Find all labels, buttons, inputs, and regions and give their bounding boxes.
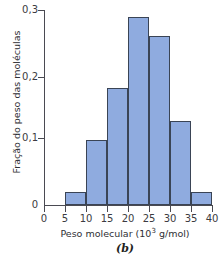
y-tick-0.2 <box>38 77 45 78</box>
histogram-bar <box>191 192 212 205</box>
y-tick-label-0: 0 <box>4 200 38 210</box>
y-tick-0.1 <box>38 138 45 139</box>
x-tick-label-40: 40 <box>200 213 224 224</box>
x-tick-35 <box>191 206 192 212</box>
y-axis-title: Fração do peso das moléculas <box>12 22 22 182</box>
x-tick-5 <box>65 206 66 212</box>
x-tick-25 <box>149 206 150 212</box>
y-tick-label-0-wrap: 0 <box>0 200 38 210</box>
histogram-bar <box>107 88 128 205</box>
y-tick-label-0.2-wrap: 0,2 <box>0 72 38 82</box>
x-tick-15 <box>107 206 108 212</box>
x-axis-title-suffix: g/mol) <box>156 228 190 239</box>
histogram-bar <box>149 36 170 205</box>
x-axis-title: Peso molecular (103 g/mol) <box>30 228 220 239</box>
y-tick-label-0.1-wrap: 0,1 <box>0 133 38 143</box>
y-tick-label-0.2: 0,2 <box>4 72 38 82</box>
y-tick-label-0.3-wrap: 0,3 <box>0 5 38 15</box>
y-tick-label-0.3: 0,3 <box>4 5 38 15</box>
x-tick-30 <box>170 206 171 212</box>
histogram-bar <box>128 17 149 206</box>
y-tick-0.3 <box>38 10 45 11</box>
histogram-bar <box>170 121 191 206</box>
x-tick-0 <box>44 206 45 212</box>
histogram-bar <box>86 140 107 205</box>
x-axis-title-prefix: Peso molecular (10 <box>60 228 151 239</box>
histogram-bar <box>65 192 86 205</box>
y-axis-line <box>44 10 45 206</box>
histogram-figure: Fração do peso das moléculas 0,3 0,2 0,1… <box>0 0 224 259</box>
x-tick-20 <box>128 206 129 212</box>
x-tick-40 <box>212 206 213 212</box>
panel-caption: (b) <box>30 243 220 255</box>
x-tick-10 <box>86 206 87 212</box>
y-tick-label-0.1: 0,1 <box>4 133 38 143</box>
